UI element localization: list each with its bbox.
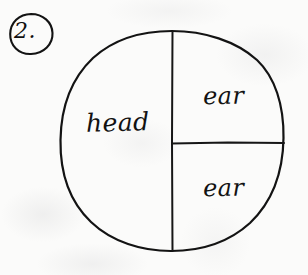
vertical-divider-line	[172, 32, 173, 251]
horizontal-divider-line	[172, 143, 284, 144]
fraction-circle-figure	[0, 0, 308, 275]
item-number-label: 2.	[14, 18, 36, 43]
region-label-ear-bottom: ear	[203, 174, 245, 203]
region-label-ear-top: ear	[203, 82, 245, 111]
worksheet-page: 2. head ear ear	[0, 0, 308, 275]
region-label-head: head	[86, 107, 150, 138]
